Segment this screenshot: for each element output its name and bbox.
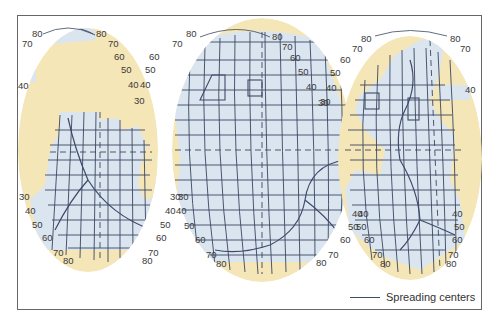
svg-text:70: 70	[148, 247, 159, 258]
svg-text:40: 40	[326, 82, 337, 93]
svg-text:60: 60	[452, 234, 463, 245]
indian-ocean-lobe	[18, 25, 165, 272]
svg-text:80: 80	[32, 28, 43, 39]
svg-text:40: 40	[358, 208, 369, 219]
svg-text:60: 60	[114, 51, 125, 62]
svg-text:70: 70	[172, 38, 183, 49]
svg-text:70: 70	[22, 38, 33, 49]
map-legend: Spreading centers	[350, 291, 475, 303]
svg-text:80: 80	[316, 257, 327, 268]
svg-text:60: 60	[195, 234, 206, 245]
svg-text:80: 80	[380, 258, 391, 269]
svg-text:80: 80	[361, 33, 372, 44]
svg-text:30: 30	[134, 95, 145, 106]
svg-text:80: 80	[216, 258, 227, 269]
svg-text:40: 40	[465, 84, 476, 95]
svg-text:50: 50	[145, 64, 156, 75]
svg-text:40: 40	[176, 205, 187, 216]
svg-text:40: 40	[140, 79, 151, 90]
svg-text:50: 50	[454, 221, 465, 232]
svg-text:80: 80	[272, 31, 283, 42]
svg-text:30: 30	[318, 97, 329, 108]
svg-text:50: 50	[298, 66, 309, 77]
world-ocean-survey-map: 8070 40 8070 6050 4030 3040 5060 7080 80…	[0, 0, 494, 323]
svg-text:70: 70	[282, 41, 293, 52]
svg-text:60: 60	[340, 234, 351, 245]
svg-text:40: 40	[165, 205, 176, 216]
svg-text:60: 60	[42, 232, 53, 243]
svg-text:50: 50	[32, 219, 43, 230]
svg-text:80: 80	[96, 28, 107, 39]
svg-text:50: 50	[356, 221, 367, 232]
svg-text:50: 50	[184, 220, 195, 231]
svg-text:70: 70	[328, 249, 339, 260]
svg-text:40: 40	[25, 205, 36, 216]
svg-text:40: 40	[452, 208, 463, 219]
svg-text:60: 60	[149, 51, 160, 62]
svg-text:70: 70	[352, 43, 363, 54]
svg-text:30: 30	[19, 191, 30, 202]
svg-text:70: 70	[460, 43, 471, 54]
svg-text:80: 80	[186, 28, 197, 39]
spreading-center-line-icon	[350, 297, 380, 298]
svg-text:50: 50	[121, 64, 132, 75]
svg-text:70: 70	[53, 247, 64, 258]
svg-text:30: 30	[178, 191, 189, 202]
svg-text:60: 60	[340, 54, 351, 65]
legend-label: Spreading centers	[386, 291, 475, 303]
svg-text:80: 80	[450, 33, 461, 44]
svg-text:60: 60	[364, 234, 375, 245]
svg-text:40: 40	[18, 80, 29, 91]
svg-text:60: 60	[156, 232, 167, 243]
svg-text:40: 40	[128, 79, 139, 90]
svg-text:70: 70	[108, 38, 119, 49]
svg-text:50: 50	[160, 219, 171, 230]
svg-text:80: 80	[446, 258, 457, 269]
svg-text:70: 70	[206, 249, 217, 260]
svg-text:60: 60	[290, 52, 301, 63]
svg-text:80: 80	[63, 255, 74, 266]
svg-text:40: 40	[306, 81, 317, 92]
svg-text:50: 50	[330, 67, 341, 78]
